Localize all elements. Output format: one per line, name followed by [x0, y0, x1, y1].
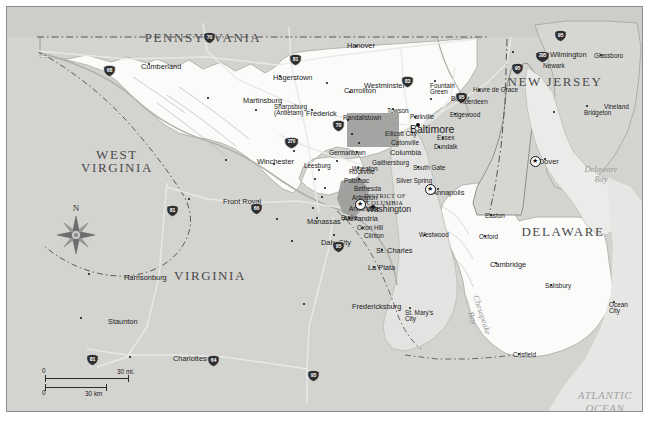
city-label: St. Charles	[376, 247, 413, 254]
interstate-number: 81	[86, 357, 99, 362]
interstate-shield-icon: 66	[250, 203, 263, 215]
scale-bar-miles-line	[45, 378, 129, 379]
interstate-number: 95	[511, 66, 524, 71]
city-label: Catonville	[391, 140, 419, 146]
city-label: Germantown	[329, 150, 366, 156]
district-of-columbia-label: DISTRICT OFCOLUMBIA	[340, 192, 430, 207]
city-label: Towson	[387, 108, 409, 114]
interstate-shield-icon: 68	[103, 65, 116, 77]
city-label: Harrisonburg	[124, 274, 167, 281]
compass-north-label: N	[53, 203, 99, 213]
interstate-shield-icon: 270	[284, 137, 299, 149]
interstate-shield-icon: 81	[86, 354, 99, 366]
interstate-number: 66	[250, 206, 263, 211]
city-label: Sharpsburg(Antietam)	[274, 104, 307, 117]
city-label: Columbia	[390, 149, 421, 156]
city-label: Glassboro	[594, 53, 623, 59]
interstate-number: 95	[332, 244, 345, 249]
state-capital-star-icon: ★	[530, 156, 541, 167]
city-label: Carrollton	[344, 87, 376, 94]
scale-bar: 0 30 mi. 0 30 km	[41, 367, 171, 397]
city-label: Fredericksburg	[352, 303, 401, 310]
interstate-number: 81	[289, 57, 302, 62]
interstate-number: 270	[284, 140, 299, 145]
city-label: South Gate	[413, 165, 445, 171]
city-label: Wilmington	[550, 51, 587, 58]
city-label: Hanover	[347, 42, 375, 49]
city-label: Burke	[341, 215, 358, 221]
city-label: Parkville	[410, 114, 434, 120]
state-label: DELAWARE	[503, 225, 623, 238]
interstate-number: 70	[332, 123, 345, 128]
city-label: Dundalk	[434, 144, 457, 150]
city-label: Oxon Hill	[357, 225, 383, 231]
map-frame: PENNSYLVANIANEW JERSEYWESTVIRGINIADELAWA…	[6, 6, 643, 412]
interstate-number: 64	[207, 358, 220, 363]
city-label: Westwood	[419, 232, 449, 238]
interstate-shield-icon: 70	[203, 32, 216, 44]
interstate-shield-icon: 70	[332, 120, 345, 132]
interstate-number: 68	[103, 68, 116, 73]
city-label: Bridgeton	[584, 110, 611, 116]
city-label: Dover	[539, 158, 559, 165]
city-label: Cumberland	[141, 63, 181, 70]
interstate-shield-icon: 81	[289, 54, 302, 66]
interstate-number: 95	[307, 373, 320, 378]
interstate-shield-icon: 95	[511, 63, 524, 75]
interstate-number: 95	[554, 33, 567, 38]
interstate-number: 295	[535, 54, 550, 59]
scale-miles-zero-label: 0	[42, 367, 46, 374]
city-label: Randallstown	[343, 115, 381, 121]
city-label: Hagerstown	[273, 74, 312, 81]
city-label: Edgewood	[450, 112, 480, 118]
map-container: PENNSYLVANIANEW JERSEYWESTVIRGINIADELAWA…	[0, 0, 655, 424]
interstate-shield-icon: 95	[307, 370, 320, 382]
scale-km-max-label: 30 km	[85, 390, 102, 397]
city-label: Potomac	[344, 178, 369, 184]
scale-km-zero-label: 0	[42, 389, 46, 396]
state-label: VIRGINIA	[150, 269, 270, 282]
city-label: Havre de Grace	[473, 87, 518, 93]
city-label: FountainGreen	[430, 83, 455, 96]
interstate-shield-icon: 95	[455, 92, 468, 104]
interstate-shield-icon: 64	[207, 355, 220, 367]
interstate-number: 83	[401, 79, 414, 84]
city-label: La Plata	[368, 264, 395, 271]
city-label: Manassas	[307, 218, 341, 225]
interstate-shield-icon: 295	[535, 51, 550, 63]
interstate-shield-icon: 95	[332, 241, 345, 253]
water-label: ATLANTICOCEAN	[555, 389, 643, 412]
city-label: Essex	[437, 135, 454, 141]
interstate-shield-icon: 83	[401, 76, 414, 88]
city-label: Staunton	[108, 318, 138, 325]
city-label: Oxford	[479, 234, 498, 240]
interstate-shield-icon: 95	[554, 30, 567, 42]
city-label: Frederick	[306, 110, 337, 117]
city-label: Clinton	[364, 233, 384, 239]
city-label: Winchester	[257, 158, 294, 165]
interstate-number: 70	[203, 35, 216, 40]
city-label: Rockville	[349, 169, 375, 175]
city-label: Annapolis	[432, 189, 464, 196]
city-label: Salisbury	[545, 283, 571, 289]
scale-tick-km-end	[106, 384, 107, 391]
scale-tick-miles-start	[45, 375, 46, 382]
city-label: Newark	[543, 63, 565, 69]
city-label: Silver Spring	[396, 178, 432, 184]
state-label: WESTVIRGINIA	[57, 148, 177, 174]
interstate-number: 95	[455, 95, 468, 100]
compass-rose: N	[53, 203, 99, 255]
interstate-shield-icon: 81	[166, 205, 179, 217]
city-label: Easton	[485, 213, 505, 219]
water-label: DelawareBay	[551, 165, 643, 185]
city-label: Ellicott City	[385, 131, 417, 137]
city-label: Crisfield	[513, 352, 536, 358]
interstate-number: 81	[166, 208, 179, 213]
scale-tick-miles-end	[128, 375, 129, 382]
scale-bar-km-line	[45, 387, 107, 388]
city-label: Cambridge	[490, 261, 526, 268]
city-label: St. Mary'sCity	[405, 310, 433, 323]
scale-miles-max-label: 30 mi.	[117, 368, 134, 375]
city-label: OceanCity	[609, 302, 628, 315]
